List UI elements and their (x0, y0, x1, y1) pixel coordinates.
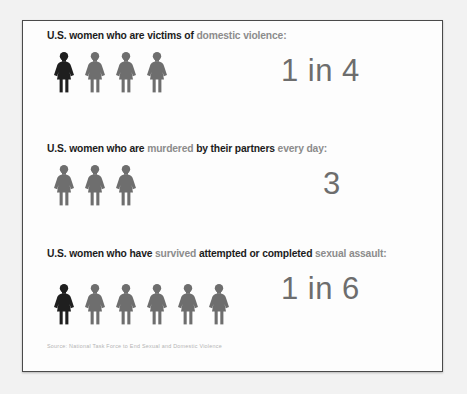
stat-headline: U.S. women who have survived attempted o… (47, 247, 425, 261)
infographic-page: U.S. women who are victims of domestic v… (22, 20, 443, 372)
pictogram-row (51, 164, 139, 206)
headline-segment: attempted or completed (199, 248, 315, 259)
headline-segment: U.S. women who are victims of (47, 30, 196, 41)
female-figure-icon (144, 51, 170, 93)
headline-segment: survived (155, 248, 199, 259)
headline-segment: domestic violence: (196, 30, 286, 41)
pictogram-row (51, 51, 170, 93)
female-figure-icon (82, 283, 108, 325)
headline-segment: murdered (147, 143, 196, 154)
headline-segment: U.S. women who have (47, 248, 155, 259)
female-figure-icon (175, 283, 201, 325)
headline-segment: every day: (278, 143, 327, 154)
female-figure-icon-highlighted (51, 51, 77, 93)
female-figure-icon (113, 51, 139, 93)
female-figure-icon (82, 51, 108, 93)
female-figure-icon (82, 164, 108, 206)
stat-headline: U.S. women who are victims of domestic v… (47, 29, 425, 43)
pictogram-row (51, 283, 232, 325)
stat-value: 1 in 6 (281, 269, 360, 309)
female-figure-icon (113, 164, 139, 206)
female-figure-icon (113, 283, 139, 325)
female-figure-icon (51, 164, 77, 206)
infographic-canvas: U.S. women who are victims of domestic v… (23, 21, 442, 371)
stat-value: 3 (323, 164, 341, 204)
headline-segment: U.S. women who are (47, 143, 147, 154)
female-figure-icon-highlighted (51, 283, 77, 325)
female-figure-icon (144, 283, 170, 325)
headline-segment: sexual assault: (315, 248, 387, 259)
stat-headline: U.S. women who are murdered by their par… (47, 142, 425, 156)
headline-segment: by their partners (196, 143, 277, 154)
female-figure-icon (206, 283, 232, 325)
stat-value: 1 in 4 (281, 51, 360, 91)
source-credit: Source: National Task Force to End Sexua… (47, 343, 222, 349)
